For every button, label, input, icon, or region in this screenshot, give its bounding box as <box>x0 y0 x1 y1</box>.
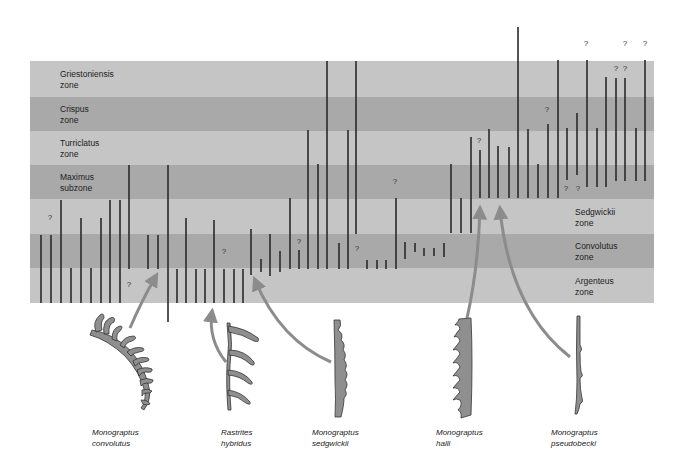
zone-label-rank: zone <box>60 115 79 125</box>
graptolite-specimens <box>90 314 583 418</box>
specimen-convolutus-icon <box>90 314 153 410</box>
species-epithet: hybridus <box>221 438 253 449</box>
zone-label-rank: subzone <box>60 183 92 193</box>
zone-label-name: Sedgwickii <box>575 207 615 217</box>
species-epithet: halli <box>436 438 483 449</box>
zone-band-turriclatus <box>30 131 654 165</box>
zone-label-name: Convolutus <box>575 241 618 251</box>
zone-label-rank: zone <box>60 80 79 90</box>
zone-band-argenteus <box>30 268 654 303</box>
uncertain-marker: ? <box>623 39 628 48</box>
uncertain-marker: ? <box>393 177 398 186</box>
uncertain-marker: ? <box>643 39 648 48</box>
arrow-hybridus <box>211 312 226 362</box>
zone-band-maximus <box>30 165 654 199</box>
species-genus: Monograptus <box>436 427 483 438</box>
zone-label-rank: zone <box>575 218 594 228</box>
uncertain-marker: ? <box>623 64 628 73</box>
zone-label-name: Turriclatus <box>60 138 99 148</box>
species-epithet: sedgwickii <box>312 438 359 449</box>
uncertain-marker: ? <box>355 244 360 253</box>
specimen-hybridus-icon <box>227 323 259 410</box>
zone-band-convolutus <box>30 234 654 268</box>
specimen-pseudobecki-icon <box>575 316 583 414</box>
uncertain-marker: ? <box>564 184 569 193</box>
zone-bands <box>30 61 654 303</box>
zone-band-sedgwickii <box>30 199 654 234</box>
species-label-halli: Monograptus halli <box>436 427 483 449</box>
species-genus: Monograptus <box>92 427 139 438</box>
uncertain-marker: ? <box>545 105 550 114</box>
zone-label-name: Crispus <box>60 104 89 114</box>
species-epithet: convolutus <box>92 438 139 449</box>
uncertain-marker: ? <box>222 247 227 256</box>
zone-label-name: Griestoniensis <box>60 69 114 79</box>
zone-label-rank: zone <box>575 287 594 297</box>
species-label-convolutus: Monograptus convolutus <box>92 427 139 449</box>
uncertain-marker: ? <box>127 280 132 289</box>
species-genus: Monograptus <box>551 427 598 438</box>
uncertain-marker: ? <box>614 64 619 73</box>
specimen-sedgwickii-icon <box>334 320 347 417</box>
zone-band-griestoniensis <box>30 61 654 97</box>
uncertain-marker: ? <box>477 136 482 145</box>
species-epithet: pseudobecki <box>551 438 598 449</box>
species-label-hybridus: Rastrites hybridus <box>221 427 253 449</box>
species-label-pseudobecki: Monograptus pseudobecki <box>551 427 598 449</box>
zone-label-rank: zone <box>60 149 79 159</box>
uncertain-marker: ? <box>584 39 589 48</box>
zone-label-rank: zone <box>575 252 594 262</box>
uncertain-marker: ? <box>576 184 581 193</box>
species-label-sedgwickii: Monograptus sedgwickii <box>312 427 359 449</box>
range-chart-diagram: GriestoniensiszoneCrispuszoneTurriclatus… <box>0 0 687 473</box>
zone-label-name: Argenteus <box>575 276 614 286</box>
uncertain-marker: ? <box>297 237 302 246</box>
zone-label-name: Maximus <box>60 172 94 182</box>
species-genus: Rastrites <box>221 427 253 438</box>
zone-band-crispus <box>30 97 654 131</box>
uncertain-marker: ? <box>48 213 53 222</box>
specimen-halli-icon <box>453 318 472 418</box>
species-genus: Monograptus <box>312 427 359 438</box>
